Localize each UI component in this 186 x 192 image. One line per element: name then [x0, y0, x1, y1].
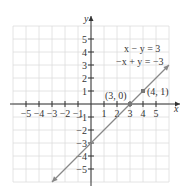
x-tick-label: 3: [128, 108, 133, 119]
y-tick-label: 1: [82, 86, 87, 97]
y-tick-label: −1: [76, 112, 87, 123]
line-plot: [52, 65, 169, 182]
y-tick-label: −3: [76, 138, 87, 149]
y-tick-label: 2: [82, 73, 87, 84]
x-axis-label: x: [173, 103, 179, 114]
x-tick-label: 4: [141, 108, 146, 119]
y-axis-label: y: [83, 13, 89, 24]
point-label-3-0: (3, 0): [105, 90, 127, 102]
data-point: [128, 102, 132, 106]
x-tick-label: 5: [154, 108, 159, 119]
axes: [10, 16, 180, 186]
x-tick-label: 1: [102, 108, 107, 119]
equation-1: x − y = 3: [124, 43, 160, 54]
coordinate-plane: −5−4−3−2−11234554321−1−2−3−4−5 x − y = 3…: [0, 0, 186, 192]
data-point: [141, 89, 145, 93]
y-tick-label: 5: [82, 34, 87, 45]
x-tick-label: −2: [60, 108, 71, 119]
x-tick-label: −3: [47, 108, 58, 119]
point-label-4-1: (4, 1): [147, 86, 169, 98]
y-tick-label: −2: [76, 125, 87, 136]
solution-line: [52, 65, 169, 182]
x-tick-label: −5: [21, 108, 32, 119]
y-tick-label: −5: [76, 164, 87, 175]
equation-2: −x + y = −3: [116, 56, 164, 67]
x-tick-label: −4: [34, 108, 45, 119]
y-tick-label: 3: [82, 60, 87, 71]
y-tick-label: 4: [82, 47, 87, 58]
y-axis-arrow-icon: [89, 16, 94, 21]
